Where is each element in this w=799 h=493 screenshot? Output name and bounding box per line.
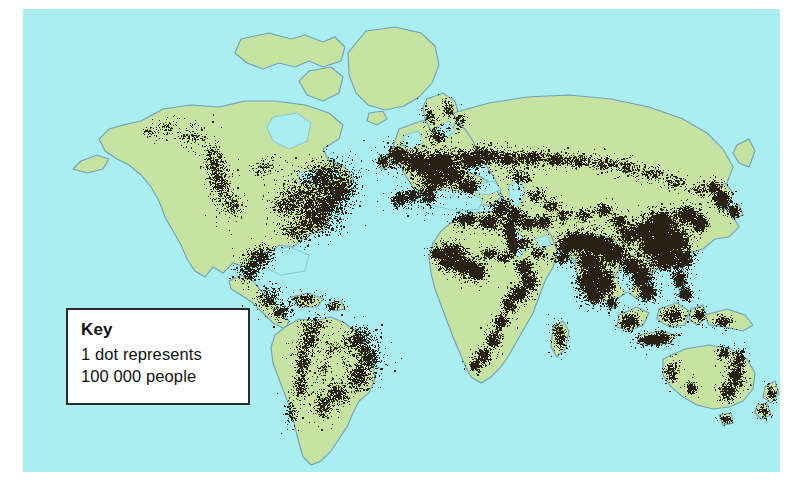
population-map-figure: Key 1 dot represents 100 000 people — [0, 0, 799, 493]
key-line-2: 100 000 people — [81, 366, 248, 388]
key-title: Key — [81, 319, 248, 340]
map-key: Key 1 dot represents 100 000 people — [66, 308, 250, 405]
key-line-1: 1 dot represents — [81, 344, 248, 366]
